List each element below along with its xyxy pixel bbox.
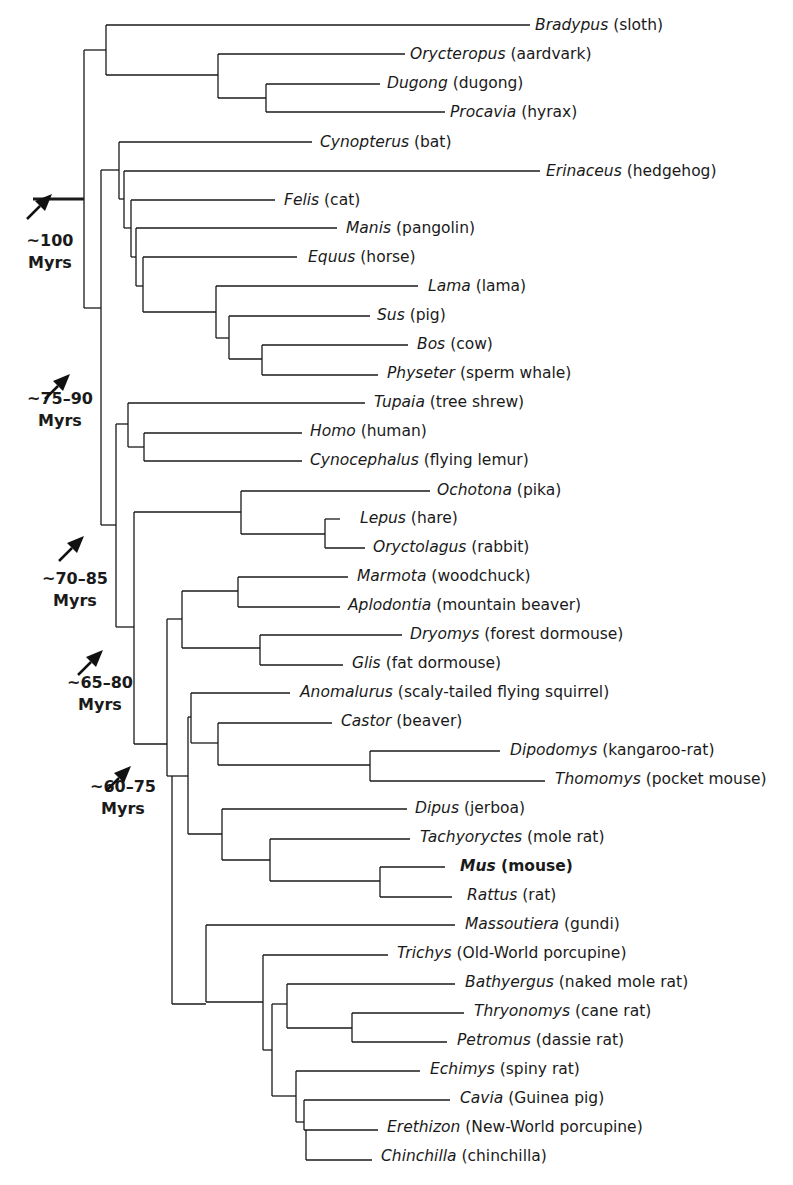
genus-name: Cynocephalus	[310, 451, 419, 469]
taxon-label: Physeter (sperm whale)	[387, 364, 571, 382]
taxon-label: Bradypus (sloth)	[535, 16, 663, 34]
common-name: (dugong)	[448, 74, 524, 92]
common-name: (mountain beaver)	[431, 596, 581, 614]
arrow-icon	[42, 372, 72, 402]
taxon-label: Echimys (spiny rat)	[430, 1060, 580, 1078]
common-name: (pig)	[405, 306, 446, 324]
taxon-label: Anomalurus (scaly-tailed flying squirrel…	[300, 683, 609, 701]
taxon-label: Dryomys (forest dormouse)	[410, 625, 623, 643]
taxon-label: Erinaceus (hedgehog)	[546, 162, 717, 180]
common-name: (pangolin)	[391, 219, 475, 237]
genus-name: Lepus	[360, 509, 406, 527]
taxon-label: Thomomys (pocket mouse)	[555, 770, 767, 788]
time-range: ~100	[5, 230, 95, 252]
genus-name: Tupaia	[374, 393, 425, 411]
genus-name: Equus	[308, 248, 355, 266]
genus-name: Homo	[310, 422, 356, 440]
taxon-label: Massoutiera (gundi)	[465, 915, 620, 933]
genus-name: Ochotona	[437, 481, 512, 499]
time-unit: Myrs	[78, 798, 168, 820]
common-name: (rabbit)	[466, 538, 529, 556]
taxon-label: Erethizon (New-World porcupine)	[387, 1118, 643, 1136]
taxon-label: Equus (horse)	[308, 248, 416, 266]
taxon-label: Bos (cow)	[417, 335, 493, 353]
taxon-label: Procavia (hyrax)	[450, 103, 577, 121]
time-unit: Myrs	[30, 590, 120, 612]
arrow-icon	[75, 648, 105, 678]
genus-name: Manis	[346, 219, 391, 237]
common-name: (kangaroo-rat)	[597, 741, 714, 759]
taxon-label: Sus (pig)	[377, 306, 446, 324]
taxon-label: Glis (fat dormouse)	[352, 654, 501, 672]
time-range: ~70–85	[30, 568, 120, 590]
taxon-label: Castor (beaver)	[341, 712, 462, 730]
taxon-label: Lepus (hare)	[360, 509, 458, 527]
common-name: (naked mole rat)	[554, 973, 688, 991]
common-name: (Guinea pig)	[503, 1089, 604, 1107]
common-name: (mole rat)	[522, 828, 604, 846]
genus-name: Oryctolagus	[373, 538, 466, 556]
genus-name: Echimys	[430, 1060, 495, 1078]
taxon-label: Tupaia (tree shrew)	[374, 393, 524, 411]
genus-name: Orycteropus	[410, 45, 505, 63]
common-name: (Old-World porcupine)	[452, 944, 627, 962]
common-name: (sloth)	[608, 16, 663, 34]
genus-name: Anomalurus	[300, 683, 393, 701]
taxon-label: Tachyoryctes (mole rat)	[420, 828, 604, 846]
taxon-label: Chinchilla (chinchilla)	[381, 1147, 547, 1165]
taxon-label: Cavia (Guinea pig)	[460, 1089, 604, 1107]
time-unit: Myrs	[5, 252, 95, 274]
genus-name: Bathyergus	[465, 973, 554, 991]
common-name: (flying lemur)	[419, 451, 529, 469]
common-name: (horse)	[355, 248, 415, 266]
genus-name: Bradypus	[535, 16, 608, 34]
taxon-label: Ochotona (pika)	[437, 481, 561, 499]
common-name: (pika)	[512, 481, 561, 499]
common-name: (scaly-tailed flying squirrel)	[393, 683, 609, 701]
common-name: (hedgehog)	[622, 162, 717, 180]
common-name: (sperm whale)	[455, 364, 571, 382]
taxon-label: Dugong (dugong)	[387, 74, 523, 92]
genus-name: Lama	[428, 277, 471, 295]
taxon-label: Orycteropus (aardvark)	[410, 45, 591, 63]
arrow-icon	[24, 192, 54, 222]
genus-name: Chinchilla	[381, 1147, 457, 1165]
common-name: (forest dormouse)	[479, 625, 623, 643]
common-name: (gundi)	[559, 915, 620, 933]
taxon-label: Oryctolagus (rabbit)	[373, 538, 529, 556]
common-name: (cane rat)	[570, 1002, 651, 1020]
taxon-label: Bathyergus (naked mole rat)	[465, 973, 688, 991]
common-name: (pocket mouse)	[641, 770, 767, 788]
divergence-time-label: ~100Myrs	[5, 230, 95, 274]
common-name: (aardvark)	[505, 45, 591, 63]
common-name: (tree shrew)	[425, 393, 524, 411]
arrow-icon	[103, 764, 133, 794]
taxon-label: Rattus (rat)	[467, 886, 556, 904]
common-name: (cat)	[319, 191, 360, 209]
genus-name: Felis	[284, 191, 319, 209]
taxon-label: Dipodomys (kangaroo-rat)	[510, 741, 714, 759]
common-name: (hyrax)	[516, 103, 577, 121]
genus-name: Tachyoryctes	[420, 828, 522, 846]
genus-name: Thryonomys	[474, 1002, 570, 1020]
taxon-label: Dipus (jerboa)	[415, 799, 525, 817]
common-name: (fat dormouse)	[381, 654, 501, 672]
genus-name: Massoutiera	[465, 915, 559, 933]
common-name: (bat)	[409, 133, 451, 151]
common-name: (hare)	[406, 509, 458, 527]
common-name: (rat)	[517, 886, 556, 904]
genus-name: Aplodontia	[348, 596, 431, 614]
taxon-label: Marmota (woodchuck)	[357, 567, 531, 585]
genus-name: Erinaceus	[546, 162, 622, 180]
common-name: (spiny rat)	[495, 1060, 580, 1078]
genus-name: Mus	[460, 857, 496, 875]
genus-name: Rattus	[467, 886, 517, 904]
genus-name: Bos	[417, 335, 445, 353]
common-name: (jerboa)	[459, 799, 525, 817]
genus-name: Sus	[377, 306, 405, 324]
time-unit: Myrs	[15, 410, 105, 432]
taxon-label: Thryonomys (cane rat)	[474, 1002, 651, 1020]
common-name: (chinchilla)	[457, 1147, 547, 1165]
genus-name: Erethizon	[387, 1118, 460, 1136]
genus-name: Petromus	[457, 1031, 531, 1049]
